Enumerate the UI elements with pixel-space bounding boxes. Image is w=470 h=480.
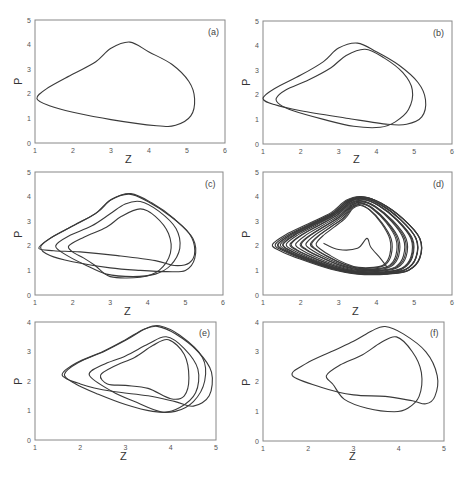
y-tick-label: 3	[255, 348, 259, 355]
y-tick-label: 4	[255, 42, 259, 49]
x-tick-label: 2	[299, 299, 303, 306]
x-tick-label: 1	[33, 444, 37, 451]
x-tick-label: 6	[450, 148, 454, 155]
y-tick-label: 3	[255, 67, 259, 74]
y-tick-label: 0	[255, 438, 259, 445]
orbit-curve	[68, 209, 171, 278]
x-tick-label: 4	[146, 299, 150, 306]
x-tick-label: 1	[261, 445, 265, 452]
y-tick-label: 1	[27, 115, 31, 122]
y-tick-label: 5	[255, 18, 259, 25]
y-tick-label: 0	[255, 141, 259, 148]
figure-phase-portraits: (a) Z P 123456012345 (b) Z P 12345601234…	[0, 0, 470, 480]
y-tick-label: 0	[27, 140, 31, 147]
y-tick-label: 0	[255, 292, 259, 299]
orbit-curve	[100, 339, 188, 399]
y-tick-label: 2	[27, 90, 31, 97]
orbit-curve	[41, 194, 196, 272]
panel-tag: (f)	[430, 328, 439, 338]
panel-tag: (a)	[208, 27, 219, 37]
x-tick-label: 2	[71, 147, 75, 154]
y-tick-label: 3	[27, 218, 31, 225]
orbit-curve	[64, 325, 205, 412]
y-tick-label: 3	[27, 66, 31, 73]
y-axis-label: P	[240, 379, 252, 386]
orbit-curve	[292, 326, 438, 404]
y-tick-label: 5	[255, 169, 259, 176]
x-axis-label: Z	[352, 305, 359, 317]
y-tick-label: 5	[27, 169, 31, 176]
y-tick-label: 0	[27, 292, 31, 299]
y-tick-label: 1	[255, 408, 259, 415]
y-tick-label: 2	[255, 242, 259, 249]
y-tick-label: 5	[27, 17, 31, 24]
x-tick-label: 2	[71, 299, 75, 306]
x-tick-label: 6	[450, 299, 454, 306]
y-tick-label: 4	[27, 41, 31, 48]
x-tick-label: 5	[214, 444, 218, 451]
y-tick-label: 2	[27, 242, 31, 249]
y-axis-label: P	[12, 231, 24, 238]
y-tick-label: 3	[27, 348, 31, 355]
x-tick-label: 4	[169, 444, 173, 451]
x-tick-label: 1	[261, 148, 265, 155]
y-tick-label: 4	[27, 193, 31, 200]
x-tick-label: 5	[412, 299, 416, 306]
panel-tag: (b)	[433, 28, 444, 38]
orbit-curve	[56, 201, 180, 277]
panel-tag: (e)	[199, 328, 210, 338]
panel-c: (c) Z P 123456012345	[12, 169, 225, 318]
y-tick-label: 1	[255, 116, 259, 123]
y-axis-label: P	[12, 78, 24, 85]
x-tick-label: 3	[109, 147, 113, 154]
x-tick-label: 2	[78, 444, 82, 451]
panel-tag: (d)	[433, 179, 444, 189]
orbit-curve	[62, 326, 212, 406]
x-tick-label: 4	[374, 299, 378, 306]
x-tick-label: 5	[183, 299, 187, 306]
x-tick-label: 5	[412, 148, 416, 155]
orbit-curve	[89, 337, 199, 413]
panel-f: (f) Z P 1234501234	[240, 319, 446, 463]
y-tick-label: 1	[27, 267, 31, 274]
y-tick-label: 4	[255, 319, 259, 326]
x-tick-label: 2	[299, 148, 303, 155]
orbit-curve	[39, 194, 195, 266]
y-tick-label: 0	[27, 437, 31, 444]
x-tick-label: 3	[352, 445, 356, 452]
y-axis-label: P	[12, 378, 24, 385]
x-axis-label: Z	[353, 153, 360, 165]
panel-b: (b) Z P 123456012345	[240, 18, 454, 166]
panel-d: (d) Z P 123456012345	[240, 169, 454, 318]
x-tick-label: 5	[185, 147, 189, 154]
x-tick-label: 3	[124, 444, 128, 451]
x-tick-label: 2	[306, 445, 310, 452]
x-tick-label: 1	[261, 299, 265, 306]
x-tick-label: 5	[442, 445, 446, 452]
y-tick-label: 1	[27, 407, 31, 414]
y-tick-label: 4	[255, 193, 259, 200]
y-tick-label: 2	[255, 91, 259, 98]
x-axis-label: Z	[120, 450, 127, 462]
y-tick-label: 2	[255, 378, 259, 385]
x-tick-label: 4	[147, 147, 151, 154]
y-tick-label: 4	[27, 319, 31, 326]
y-axis-label: P	[240, 79, 252, 86]
panel-e: (e) Z P 1234501234	[12, 319, 218, 463]
y-tick-label: 3	[255, 218, 259, 225]
x-tick-label: 1	[33, 299, 37, 306]
x-axis-label: Z	[124, 305, 131, 317]
x-axis-label: Z	[125, 153, 132, 165]
y-tick-label: 1	[255, 267, 259, 274]
y-tick-label: 2	[27, 378, 31, 385]
x-tick-label: 6	[223, 147, 227, 154]
orbit-curve	[37, 42, 195, 126]
x-tick-label: 1	[33, 147, 37, 154]
x-tick-label: 3	[337, 148, 341, 155]
plot-area	[35, 20, 225, 143]
x-tick-label: 6	[221, 299, 225, 306]
x-tick-label: 3	[108, 299, 112, 306]
plot-area	[263, 21, 452, 144]
panel-a: (a) Z P 123456012345	[12, 17, 227, 166]
orbit-curve	[263, 43, 426, 125]
